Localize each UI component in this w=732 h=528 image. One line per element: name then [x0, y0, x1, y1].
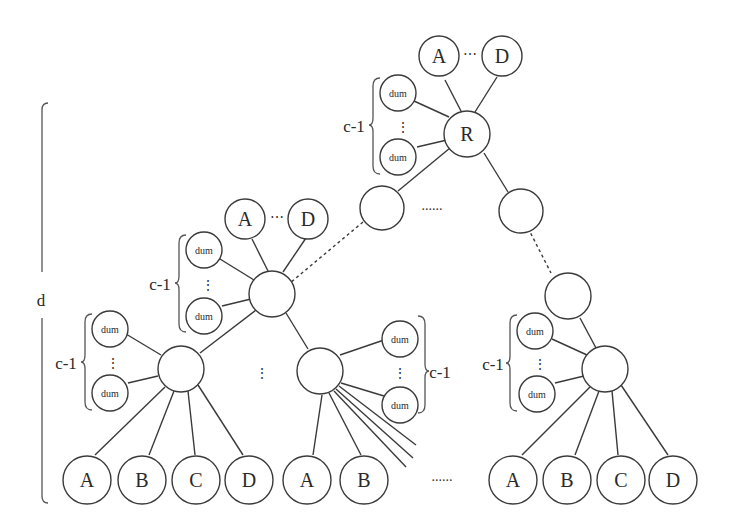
edge-R-D [475, 77, 497, 112]
height-brace-bottom [42, 318, 48, 503]
label-c-1-root: c-1 [343, 117, 365, 136]
vdots-root: ⋮ [396, 120, 410, 135]
edge-R3-D [621, 385, 668, 455]
node-level1-right [499, 189, 543, 233]
svg-text:B: B [135, 469, 148, 491]
vdots-r3: ⋮ [533, 357, 547, 372]
leaf-C: C [597, 456, 645, 504]
node-r3-dum-1: dum [517, 313, 553, 349]
node-l2-attached-A: A [225, 199, 265, 239]
svg-text:D: D [666, 469, 680, 491]
leaf-group-2: A B [283, 456, 388, 504]
ellipsis-level1: ...... [422, 198, 443, 213]
leaf-group-1: A B C D [63, 456, 273, 504]
leaf-B: B [543, 456, 591, 504]
svg-text:B: B [560, 469, 573, 491]
edge-LR-dum2 [341, 383, 384, 396]
svg-text:D: D [301, 208, 315, 230]
svg-text:dum: dum [195, 245, 213, 256]
edge-R-dum1 [414, 101, 449, 117]
svg-text:dum: dum [195, 311, 213, 322]
leaf-group-3: A B C D [489, 456, 697, 504]
edge-LL-C [188, 391, 195, 455]
node-root-attached-D: D [482, 36, 522, 76]
svg-text:D: D [242, 469, 256, 491]
leaf-B: B [118, 456, 166, 504]
node-root-R: R [444, 111, 490, 157]
svg-text:R: R [460, 123, 474, 145]
label-c-1-r3: c-1 [482, 355, 504, 374]
node-lr-dum-2: dum [382, 387, 418, 423]
svg-text:A: A [506, 469, 521, 491]
svg-text:C: C [614, 469, 627, 491]
svg-text:dum: dum [101, 324, 119, 335]
edge-LL-B [149, 391, 174, 455]
svg-text:A: A [432, 45, 447, 67]
edge-dashed-right [528, 228, 551, 273]
node-root-dum-2: dum [380, 139, 416, 175]
svg-text:dum: dum [389, 152, 407, 163]
edge-L2-LR [286, 313, 308, 349]
node-level3-lr [297, 348, 343, 394]
vdots-middle: ⋮ [255, 366, 269, 381]
node-r3-dum-2: dum [519, 376, 555, 412]
svg-text:B: B [357, 469, 370, 491]
edge-L2-A [252, 239, 268, 271]
svg-text:A: A [80, 469, 95, 491]
svg-text:dum: dum [391, 334, 409, 345]
svg-text:dum: dum [526, 326, 544, 337]
svg-text:C: C [189, 469, 202, 491]
label-c-1-lr: c-1 [429, 363, 451, 382]
edge-LL-dum1 [126, 334, 161, 355]
node-level3-ll [158, 346, 204, 392]
edge-R3-C [612, 391, 618, 455]
brace-lr [418, 316, 429, 413]
edge-L2-dum1 [220, 259, 254, 280]
edge-LR-dum1 [340, 340, 384, 355]
node-level1-left [360, 186, 404, 230]
label-c-1-l2: c-1 [149, 275, 171, 294]
node-l2-dum-1: dum [186, 232, 222, 268]
ellipsis-l2: ⋯ [270, 210, 284, 225]
vdots-lr: ⋮ [393, 366, 407, 381]
vdots-l2: ⋮ [201, 278, 215, 293]
node-ll-dum-1: dum [92, 311, 128, 347]
leaf-A: A [283, 456, 331, 504]
ellipsis-bottom: ...... [432, 469, 453, 484]
svg-text:dum: dum [528, 389, 546, 400]
svg-text:A: A [300, 469, 315, 491]
node-l2-attached-D: D [288, 199, 328, 239]
edge-L2-D [283, 238, 306, 272]
brace-ll [81, 314, 92, 410]
label-c-1-ll: c-1 [55, 354, 77, 373]
node-ll-dum-2: dum [92, 375, 128, 411]
edge-R-dum2 [417, 140, 447, 147]
svg-text:dum: dum [391, 400, 409, 411]
node-level2-right [545, 273, 591, 319]
leaf-B: B [340, 456, 388, 504]
node-root-attached-A: A [419, 36, 459, 76]
height-label-d: d [37, 291, 46, 310]
tree-diagram: A ⋯ D dum ⋮ dum c-1 R ...... A ⋯ D dum ⋮… [0, 0, 732, 528]
leaf-C: C [172, 456, 220, 504]
svg-text:dum: dum [101, 388, 119, 399]
leaf-D: D [649, 456, 697, 504]
leaf-D: D [225, 456, 273, 504]
brace-r3 [506, 315, 517, 411]
edge-R3-B [575, 391, 599, 455]
svg-text:D: D [495, 45, 509, 67]
edge-R2-R3 [580, 318, 596, 348]
node-level2-left [249, 271, 295, 317]
edge-R3-dum1 [552, 339, 587, 355]
node-lr-dum-1: dum [382, 321, 418, 357]
edge-LL-dum2 [128, 376, 158, 383]
leaf-A: A [63, 456, 111, 504]
svg-text:dum: dum [389, 88, 407, 99]
svg-text:A: A [238, 208, 253, 230]
node-root-dum-1: dum [380, 75, 416, 111]
brace-l2 [175, 235, 186, 332]
brace-root [369, 78, 380, 174]
edge-R-A [445, 80, 462, 113]
diagram-svg: A ⋯ D dum ⋮ dum c-1 R ...... A ⋯ D dum ⋮… [0, 0, 732, 528]
ellipsis-root: ⋯ [463, 47, 477, 62]
